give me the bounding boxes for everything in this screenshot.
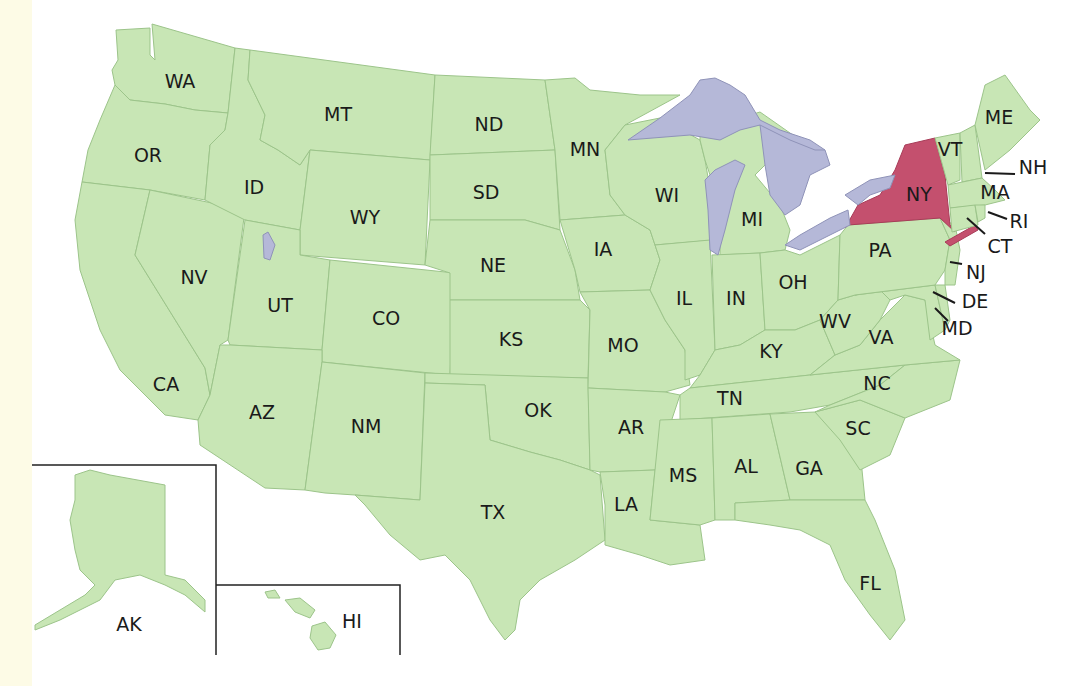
hawaii-inset (216, 585, 400, 655)
label-or: OR (134, 144, 162, 166)
label-ct: CT (988, 235, 1013, 257)
label-ok: OK (524, 399, 552, 421)
label-ga: GA (795, 457, 823, 479)
label-ks: KS (499, 328, 524, 350)
label-me: ME (985, 106, 1013, 128)
label-fl: FL (859, 572, 881, 594)
label-ia: IA (594, 238, 613, 260)
label-nj: NJ (966, 261, 986, 283)
leader-ri (988, 212, 1007, 219)
state-hi-north[interactable] (265, 590, 280, 598)
label-sc: SC (845, 417, 870, 439)
label-nd: ND (475, 113, 504, 135)
label-wy: WY (350, 206, 381, 228)
label-oh: OH (778, 271, 807, 293)
label-mt: MT (324, 103, 352, 125)
state-fl[interactable] (735, 500, 905, 640)
state-hi-mid[interactable] (285, 598, 315, 618)
label-id: ID (244, 176, 264, 198)
label-vt: VT (938, 138, 963, 160)
label-pa: PA (868, 239, 891, 261)
label-ak: AK (116, 613, 142, 635)
label-hi: HI (342, 610, 362, 632)
label-nh: NH (1019, 156, 1048, 178)
label-nc: NC (863, 372, 890, 394)
leader-nh (985, 173, 1015, 174)
label-ms: MS (669, 464, 697, 486)
state-hi-big[interactable] (310, 622, 336, 650)
label-de: DE (962, 290, 989, 312)
label-wv: WV (819, 310, 851, 332)
label-ca: CA (153, 373, 179, 395)
label-il: IL (676, 287, 693, 309)
label-mo: MO (607, 334, 638, 356)
label-in: IN (726, 287, 746, 309)
label-ut: UT (267, 294, 293, 316)
label-az: AZ (249, 401, 275, 423)
label-la: LA (614, 493, 638, 515)
state-ak[interactable] (35, 470, 205, 630)
label-ma: MA (980, 181, 1009, 203)
hawaii-inset-frame (216, 585, 400, 655)
label-ar: AR (618, 416, 644, 438)
us-map: WA OR CA ID NV MT WY UT AZ CO NM ND SD N… (0, 0, 1079, 686)
label-wa: WA (165, 70, 196, 92)
label-sd: SD (473, 181, 500, 203)
label-nv: NV (180, 266, 207, 288)
label-mi: MI (741, 208, 763, 230)
label-nm: NM (351, 415, 382, 437)
label-mn: MN (570, 138, 601, 160)
label-co: CO (372, 307, 400, 329)
label-ne: NE (480, 254, 506, 276)
label-wi: WI (655, 184, 679, 206)
label-ri: RI (1010, 210, 1029, 232)
states (75, 24, 1040, 640)
label-ny: NY (906, 183, 932, 205)
label-tx: TX (480, 501, 506, 523)
label-tn: TN (716, 387, 743, 409)
label-va: VA (869, 326, 894, 348)
label-al: AL (734, 455, 758, 477)
label-ky: KY (759, 340, 783, 362)
label-md: MD (941, 317, 972, 339)
